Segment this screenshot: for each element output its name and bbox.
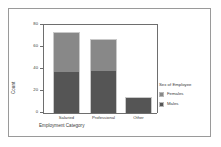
y-tick-label-40: 40	[33, 64, 38, 71]
bar-other-males[interactable]	[125, 98, 152, 113]
bar-salaried-females[interactable]	[53, 32, 80, 72]
y-tick-0: 0	[40, 112, 44, 113]
plot-right-border	[157, 24, 158, 113]
legend-label-males: Males	[167, 101, 178, 107]
legend-swatch-females-icon	[159, 92, 164, 97]
bar-professional-females[interactable]	[90, 39, 117, 71]
y-tick-60: 60	[40, 46, 44, 47]
bar-professional-males[interactable]	[90, 71, 117, 113]
legend-item-males[interactable]: Males	[159, 101, 211, 107]
bar-other[interactable]: Other	[125, 97, 152, 113]
x-tick-label-other: Other	[133, 115, 143, 121]
x-tick-label-salaried: Salaried	[59, 115, 74, 121]
bar-professional[interactable]: Professional	[90, 39, 117, 113]
y-axis-title: Count	[10, 82, 17, 94]
bar-salaried[interactable]: Salaried	[53, 32, 80, 113]
legend: Sex of Employee Females Males	[159, 81, 211, 111]
legend-label-females: Females	[167, 91, 183, 97]
x-axis-title: Employment Category	[39, 122, 84, 129]
bar-salaried-males[interactable]	[53, 72, 80, 113]
y-tick-label-20: 20	[33, 86, 38, 93]
legend-item-females[interactable]: Females	[159, 91, 211, 97]
legend-title: Sex of Employee	[159, 81, 211, 88]
plot-top-border	[43, 24, 157, 25]
y-tick-80: 80	[40, 24, 44, 25]
y-tick-20: 20	[40, 90, 44, 91]
y-tick-label-60: 60	[33, 42, 38, 49]
plot-area: 0 20 40 60 80 Salaried Professional Ot	[43, 25, 157, 114]
chart-frame: 0 20 40 60 80 Salaried Professional Ot	[8, 8, 211, 137]
x-tick-label-professional: Professional	[92, 115, 115, 121]
y-tick-40: 40	[40, 68, 44, 69]
legend-swatch-males-icon	[159, 102, 164, 107]
y-tick-label-80: 80	[33, 20, 38, 27]
y-tick-label-0: 0	[36, 108, 38, 115]
